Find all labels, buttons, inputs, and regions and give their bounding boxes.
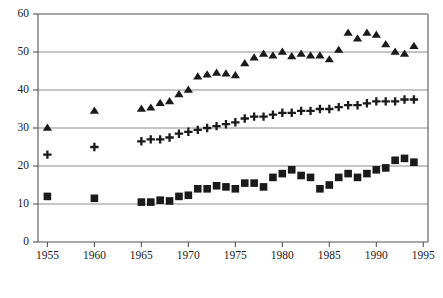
data-point bbox=[166, 197, 174, 205]
data-point bbox=[212, 122, 220, 130]
data-point bbox=[409, 42, 418, 49]
x-tick-label-1995: 1995 bbox=[412, 249, 435, 261]
data-point bbox=[278, 48, 287, 55]
data-point bbox=[269, 174, 277, 182]
data-point bbox=[165, 133, 173, 141]
data-point bbox=[250, 53, 259, 60]
data-point bbox=[391, 48, 400, 55]
data-point bbox=[241, 114, 249, 122]
x-tick-label-1970: 1970 bbox=[177, 249, 200, 261]
x-tick-label-1965: 1965 bbox=[130, 249, 153, 261]
data-point bbox=[344, 170, 352, 178]
data-point bbox=[212, 68, 221, 75]
data-point bbox=[353, 101, 361, 109]
data-point bbox=[410, 158, 418, 166]
data-point bbox=[287, 52, 296, 59]
data-point bbox=[184, 128, 192, 136]
data-point bbox=[185, 191, 193, 199]
data-point bbox=[316, 105, 324, 113]
x-tick-label-1975: 1975 bbox=[224, 249, 247, 261]
data-point bbox=[222, 120, 230, 128]
data-point bbox=[316, 185, 324, 193]
data-point bbox=[354, 174, 362, 182]
y-tick-label-10: 10 bbox=[18, 197, 30, 209]
data-point bbox=[372, 30, 381, 37]
data-point bbox=[156, 196, 164, 204]
data-point bbox=[175, 193, 183, 201]
data-point bbox=[203, 70, 212, 77]
data-point bbox=[334, 46, 343, 53]
x-tick-label-1985: 1985 bbox=[318, 249, 341, 261]
y-tick-label-30: 30 bbox=[18, 121, 30, 133]
scatter-plot: 0102030405060195519601965197019751980198… bbox=[0, 0, 443, 298]
data-point bbox=[174, 90, 183, 97]
data-point bbox=[175, 130, 183, 138]
data-point bbox=[335, 103, 343, 111]
data-point bbox=[221, 69, 230, 76]
data-point bbox=[325, 55, 334, 62]
data-point bbox=[250, 179, 258, 187]
data-point bbox=[401, 155, 409, 163]
data-point bbox=[269, 111, 277, 119]
data-point bbox=[146, 103, 155, 110]
data-point bbox=[278, 109, 286, 117]
data-point bbox=[326, 181, 334, 189]
series-square-series bbox=[44, 155, 418, 206]
data-point bbox=[400, 49, 409, 56]
data-point bbox=[373, 166, 381, 174]
data-point bbox=[194, 126, 202, 134]
data-point bbox=[363, 170, 371, 178]
data-point bbox=[372, 97, 380, 105]
data-point bbox=[344, 101, 352, 109]
data-point bbox=[410, 95, 418, 103]
data-point bbox=[91, 195, 99, 203]
data-point bbox=[279, 170, 287, 178]
data-point bbox=[90, 106, 99, 113]
data-point bbox=[344, 29, 353, 36]
data-point bbox=[297, 172, 305, 180]
x-tick-label-1990: 1990 bbox=[365, 249, 388, 261]
series-triangle-series bbox=[43, 29, 419, 131]
x-tick-label-1980: 1980 bbox=[271, 249, 294, 261]
data-point bbox=[382, 164, 390, 172]
data-point bbox=[381, 40, 390, 47]
data-point bbox=[362, 29, 371, 36]
data-point bbox=[231, 118, 239, 126]
data-point bbox=[259, 112, 267, 120]
data-point bbox=[137, 137, 145, 145]
data-point bbox=[260, 183, 268, 191]
data-point bbox=[250, 112, 258, 120]
data-point bbox=[391, 97, 399, 105]
data-point bbox=[156, 135, 164, 143]
y-tick-label-50: 50 bbox=[18, 45, 30, 57]
data-point bbox=[90, 143, 98, 151]
data-point bbox=[297, 49, 306, 56]
chart-container: 0102030405060195519601965197019751980198… bbox=[0, 0, 443, 298]
data-point bbox=[391, 157, 399, 165]
data-point bbox=[231, 71, 240, 78]
data-point bbox=[203, 124, 211, 132]
data-point bbox=[259, 49, 268, 56]
data-point bbox=[213, 182, 221, 190]
data-point bbox=[232, 185, 240, 193]
y-tick-label-0: 0 bbox=[23, 235, 29, 247]
data-point bbox=[240, 59, 249, 66]
data-point bbox=[43, 150, 51, 158]
data-point bbox=[138, 198, 146, 206]
data-point bbox=[400, 95, 408, 103]
data-point bbox=[137, 105, 146, 112]
data-point bbox=[325, 105, 333, 113]
data-point bbox=[203, 185, 211, 193]
data-point bbox=[184, 86, 193, 93]
data-point bbox=[44, 193, 52, 201]
data-point bbox=[165, 97, 174, 104]
data-point bbox=[288, 166, 296, 174]
data-point bbox=[156, 99, 165, 106]
series-plus-series bbox=[43, 95, 418, 159]
data-point bbox=[353, 34, 362, 41]
x-tick-label-1955: 1955 bbox=[36, 249, 59, 261]
data-point bbox=[194, 185, 202, 193]
data-point bbox=[297, 107, 305, 115]
y-tick-label-20: 20 bbox=[18, 159, 30, 171]
data-point bbox=[193, 72, 202, 79]
